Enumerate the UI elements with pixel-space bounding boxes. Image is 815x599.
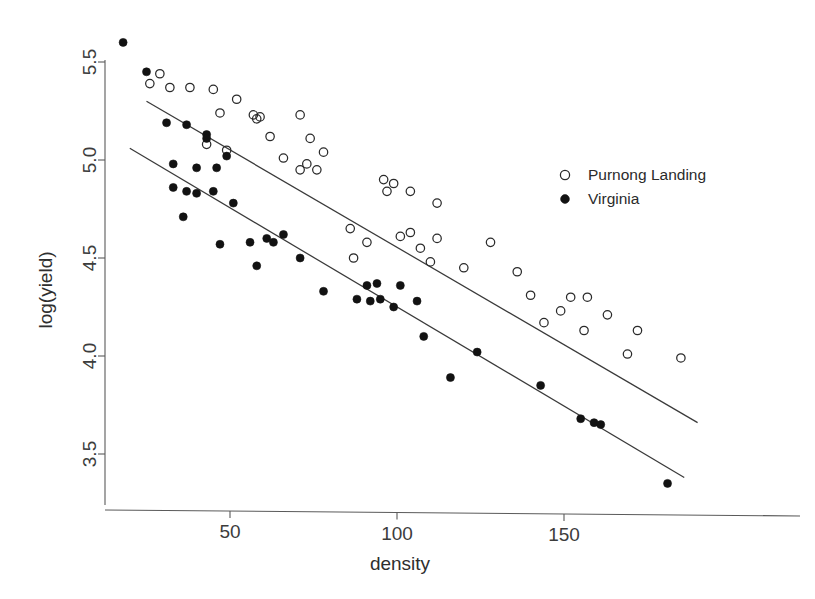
- data-point: [433, 199, 441, 207]
- data-point: [486, 238, 494, 246]
- data-point: [580, 326, 588, 334]
- data-point: [253, 262, 261, 270]
- data-point: [306, 134, 314, 142]
- data-point: [473, 348, 481, 356]
- data-point: [366, 297, 374, 305]
- y-tick-label: 3.5: [79, 441, 100, 467]
- regression-line: [147, 101, 698, 422]
- y-tick-label: 5.5: [79, 49, 100, 75]
- data-point: [246, 238, 254, 246]
- data-points: [119, 38, 685, 487]
- data-point: [677, 354, 685, 362]
- data-point: [193, 189, 201, 197]
- data-point: [203, 134, 211, 142]
- data-point: [566, 293, 574, 301]
- data-point: [633, 326, 641, 334]
- y-tick-label: 5.0: [79, 147, 100, 173]
- y-tick-label: 4.0: [79, 343, 100, 369]
- legend-label: Virginia: [588, 190, 640, 207]
- x-tick-label: 50: [219, 521, 240, 542]
- data-point: [623, 350, 631, 358]
- data-point: [346, 224, 354, 232]
- y-tick-label: 4.5: [79, 245, 100, 271]
- data-point: [373, 279, 381, 287]
- data-point: [279, 230, 287, 238]
- data-point: [209, 187, 217, 195]
- data-point: [396, 281, 404, 289]
- data-point: [296, 254, 304, 262]
- data-point: [163, 119, 171, 127]
- data-point: [556, 307, 564, 315]
- data-point: [269, 238, 277, 246]
- data-point: [319, 148, 327, 156]
- legend: Purnong LandingVirginia: [560, 166, 706, 207]
- data-point: [583, 293, 591, 301]
- data-point: [363, 238, 371, 246]
- data-point: [446, 374, 454, 382]
- data-point: [209, 85, 217, 93]
- data-point: [349, 254, 357, 262]
- data-point: [540, 318, 548, 326]
- data-point: [413, 297, 421, 305]
- data-point: [193, 164, 201, 172]
- data-point: [433, 234, 441, 242]
- data-point: [320, 287, 328, 295]
- y-axis-title: log(yield): [35, 251, 56, 328]
- chart-figure: 3.54.04.55.05.550100150 densitylog(yield…: [0, 0, 815, 599]
- x-tick-label: 150: [548, 524, 580, 545]
- data-point: [420, 332, 428, 340]
- data-point: [537, 381, 545, 389]
- legend-marker: [560, 170, 569, 179]
- regression-lines: [130, 101, 698, 477]
- data-point: [146, 79, 154, 87]
- data-point: [229, 199, 237, 207]
- data-point: [296, 166, 304, 174]
- x-tick-label: 100: [381, 523, 413, 544]
- data-point: [389, 179, 397, 187]
- data-point: [416, 244, 424, 252]
- data-point: [313, 166, 321, 174]
- data-point: [279, 154, 287, 162]
- x-axis-title: density: [370, 553, 431, 574]
- data-point: [379, 175, 387, 183]
- data-point: [119, 38, 127, 46]
- data-point: [216, 109, 224, 117]
- data-point: [406, 228, 414, 236]
- data-point: [143, 68, 151, 76]
- data-point: [213, 164, 221, 172]
- data-point: [183, 121, 191, 129]
- data-point: [363, 281, 371, 289]
- data-point: [603, 311, 611, 319]
- data-point: [577, 415, 585, 423]
- data-point: [597, 421, 605, 429]
- data-point: [183, 187, 191, 195]
- data-point: [223, 152, 231, 160]
- data-point: [169, 183, 177, 191]
- data-point: [390, 303, 398, 311]
- data-point: [353, 295, 361, 303]
- data-point: [232, 95, 240, 103]
- data-point: [169, 160, 177, 168]
- data-point: [383, 187, 391, 195]
- data-point: [526, 291, 534, 299]
- data-point: [396, 232, 404, 240]
- scatter-plot: 3.54.04.55.05.550100150 densitylog(yield…: [0, 0, 815, 599]
- data-point: [296, 111, 304, 119]
- data-point: [216, 240, 224, 248]
- data-point: [376, 295, 384, 303]
- data-point: [426, 258, 434, 266]
- data-point: [186, 83, 194, 91]
- data-point: [460, 264, 468, 272]
- legend-marker: [561, 195, 570, 204]
- data-point: [513, 268, 521, 276]
- data-point: [179, 213, 187, 221]
- legend-label: Purnong Landing: [588, 166, 706, 183]
- data-point: [166, 83, 174, 91]
- data-point: [156, 70, 164, 78]
- data-point: [406, 187, 414, 195]
- data-point: [664, 479, 672, 487]
- data-point: [266, 132, 274, 140]
